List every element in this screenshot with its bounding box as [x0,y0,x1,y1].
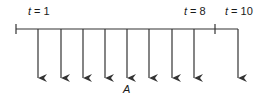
cash-flow-diagram: t = 1 t = 8 t = 10 A [0,0,264,99]
label-t-start: t = 1 [28,5,50,17]
payment-arrows [38,29,238,78]
label-t-end: t = 10 [225,5,253,17]
label-t-mid: t = 8 [184,5,206,17]
label-payment-a: A [122,83,130,95]
